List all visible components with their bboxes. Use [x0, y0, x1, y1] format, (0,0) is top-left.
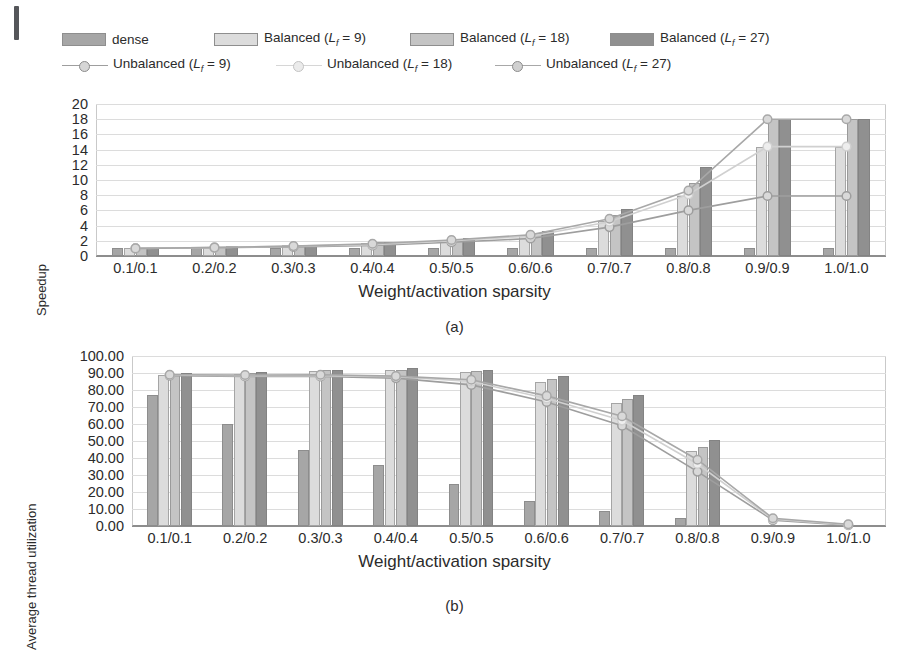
x-tick-label: 0.5/0.5 [449, 530, 493, 546]
chart-b-plot-area [132, 356, 886, 526]
line-marker [618, 412, 627, 421]
line-marker [763, 115, 772, 124]
y-tick-label: 10.00 [88, 502, 124, 517]
chart-b-y-ticks: 0.0010.0020.0030.0040.0050.0060.0070.008… [34, 350, 124, 520]
legend-label-balanced-27: Balanced (Lf = 27) [660, 30, 769, 48]
line-marker [842, 115, 851, 124]
line-marker [241, 371, 250, 380]
x-tick-label: 0.7/0.7 [587, 260, 631, 276]
y-tick-label: 50.00 [88, 434, 124, 449]
line-marker [131, 244, 140, 253]
x-tick-label: 1.0/1.0 [826, 530, 870, 546]
legend-swatch-balanced-9 [214, 33, 258, 46]
chart-a-x-axis-title: Weight/activation sparsity [0, 282, 909, 302]
legend-item-unbalanced-27[interactable]: Unbalanced (Lf = 27) [495, 56, 671, 74]
line-marker [289, 242, 298, 251]
caption-b: (b) [0, 597, 909, 614]
x-tick-label: 0.1/0.1 [113, 260, 157, 276]
line-path [170, 375, 849, 525]
gridline [96, 256, 886, 257]
page-gutter-mark [14, 6, 19, 40]
y-tick-label: 70.00 [88, 400, 124, 415]
line-marker [210, 243, 219, 252]
line-marker [165, 370, 174, 379]
line-path [136, 196, 847, 248]
x-tick-label: 0.7/0.7 [600, 530, 644, 546]
line-marker [684, 206, 693, 215]
x-tick-label: 0.2/0.2 [223, 530, 267, 546]
legend-label-balanced-9: Balanced (Lf = 9) [264, 30, 366, 48]
legend-item-balanced-27[interactable]: Balanced (Lf = 27) [610, 30, 769, 48]
legend-item-balanced-18[interactable]: Balanced (Lf = 18) [410, 30, 610, 48]
y-tick-label: 18 [72, 112, 88, 127]
y-tick-label: 14 [72, 142, 88, 157]
y-tick-label: 10 [72, 173, 88, 188]
legend-linemarker-unbalanced-9 [62, 59, 108, 72]
chart-thread-utilization: Average thread utilization 0.0010.0020.0… [0, 350, 909, 590]
x-tick-label: 0.6/0.6 [508, 260, 552, 276]
x-tick-label: 0.1/0.1 [148, 530, 192, 546]
x-tick-label: 0.6/0.6 [525, 530, 569, 546]
line-path [136, 119, 847, 248]
x-tick-label: 0.4/0.4 [350, 260, 394, 276]
legend-row-lines: Unbalanced (Lf = 9) Unbalanced (Lf = 18)… [62, 52, 902, 78]
legend-label-unbalanced-27: Unbalanced (Lf = 27) [546, 56, 671, 74]
chart-a-plot-area [96, 104, 886, 256]
x-tick-label: 1.0/1.0 [824, 260, 868, 276]
y-tick-label: 4 [80, 218, 88, 233]
line-marker [693, 455, 702, 464]
y-tick-label: 90.00 [88, 366, 124, 381]
line-path [136, 147, 847, 249]
line-marker [842, 142, 851, 151]
legend-item-unbalanced-18[interactable]: Unbalanced (Lf = 18) [276, 56, 495, 74]
line-marker [684, 186, 693, 195]
line-marker [769, 514, 778, 523]
legend-swatch-balanced-18 [410, 33, 454, 46]
line-marker [542, 392, 551, 401]
line-marker [467, 376, 476, 385]
legend-label-dense: dense [112, 32, 149, 47]
x-tick-label: 0.9/0.9 [751, 530, 795, 546]
y-tick-label: 20.00 [88, 485, 124, 500]
y-tick-label: 8 [80, 188, 88, 203]
legend-label-balanced-18: Balanced (Lf = 18) [460, 30, 569, 48]
line-marker [842, 192, 851, 201]
y-tick-label: 40.00 [88, 451, 124, 466]
line-marker [316, 370, 325, 379]
legend-item-balanced-9[interactable]: Balanced (Lf = 9) [214, 30, 410, 48]
gridline [132, 526, 886, 527]
y-tick-label: 30.00 [88, 468, 124, 483]
line-path [170, 375, 849, 525]
line-path [170, 376, 849, 526]
y-tick-label: 0.00 [96, 519, 124, 534]
x-tick-label: 0.8/0.8 [675, 530, 719, 546]
legend-label-unbalanced-9: Unbalanced (Lf = 9) [113, 56, 231, 74]
line-series-overlay [132, 356, 886, 526]
chart-a-y-ticks: 02468101214161820 [44, 98, 88, 250]
line-marker [844, 520, 853, 529]
y-tick-label: 80.00 [88, 383, 124, 398]
y-tick-label: 20 [72, 97, 88, 112]
legend-swatch-dense [62, 33, 106, 46]
chart-speedup: Speedup 02468101214161820 0.1/0.10.2/0.2… [0, 98, 909, 313]
legend-item-unbalanced-9[interactable]: Unbalanced (Lf = 9) [62, 56, 276, 74]
line-marker [368, 240, 377, 249]
legend-linemarker-unbalanced-18 [276, 59, 322, 72]
chart-b-x-ticks: 0.1/0.10.2/0.20.3/0.30.4/0.40.5/0.50.6/0… [132, 530, 886, 550]
x-tick-label: 0.8/0.8 [666, 260, 710, 276]
chart-b-x-axis-title: Weight/activation sparsity [0, 552, 909, 572]
legend-label-unbalanced-18: Unbalanced (Lf = 18) [327, 56, 452, 74]
y-tick-label: 0 [80, 249, 88, 264]
line-marker [526, 230, 535, 239]
x-tick-label: 0.3/0.3 [271, 260, 315, 276]
legend-item-dense[interactable]: dense [62, 32, 214, 47]
line-marker [392, 372, 401, 381]
line-marker [763, 192, 772, 201]
legend-swatch-balanced-27 [610, 33, 654, 46]
chart-a-x-ticks: 0.1/0.10.2/0.20.3/0.30.4/0.40.5/0.50.6/0… [96, 260, 886, 280]
legend-linemarker-unbalanced-27 [495, 59, 541, 72]
y-tick-label: 6 [80, 203, 88, 218]
figure-legend: dense Balanced (Lf = 9) Balanced (Lf = 1… [62, 26, 902, 78]
x-tick-label: 0.2/0.2 [192, 260, 236, 276]
caption-a: (a) [0, 318, 909, 335]
